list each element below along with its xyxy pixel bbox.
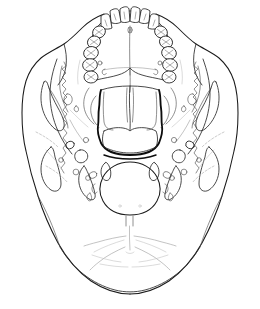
external-occipital-crest [126,216,133,226]
stylomastoid-foramen-right [197,158,202,163]
small-foramen-left-a [73,169,79,175]
foramen-lacerum-right [171,137,176,142]
small-foramen-right-a [181,169,187,175]
tooth-left-central-incisor [120,7,130,23]
inferior-nuchal-line-right [134,236,176,246]
styloid-process-right [165,166,181,200]
digastric-groove-right [192,166,214,183]
mandibular-fossa-right [196,81,219,131]
skull-figure: Human skull, inferior (basal) view [0,0,260,309]
foramen-magnum [100,162,160,226]
carotid-canal-right [184,140,195,150]
inferior-nuchal-line-left [84,236,126,246]
tooth-right-third-molar [162,71,176,83]
stylomastoid-foramen-left [59,158,64,163]
tooth-right-lateral-incisor [139,9,150,24]
hard-palate [96,26,164,92]
jugular-foramen-left [75,150,88,163]
median-palatine-suture [130,26,131,92]
foramen-lacerum-left [83,137,88,142]
tooth-left-third-molar [84,71,98,83]
lesser-palatine-foramen-left [98,61,102,65]
digastric-groove-left [46,166,68,183]
mandibular-fossa-left [41,81,64,131]
carotid-canal-left [64,140,75,150]
vomer [129,86,130,130]
foramen-spinosum-left [74,106,78,112]
skull-base-diagram: Human skull, inferior (basal) view [0,0,260,309]
tooth-right-central-incisor [130,7,140,23]
jugular-foramen-right [172,150,185,163]
tooth-left-second-molar [82,58,98,72]
styloid-process-left [79,166,95,200]
tooth-right-second-molar [162,58,178,72]
choanae-and-vomer [84,86,177,155]
sphenoid-body [103,128,158,153]
foramen-spinosum-right [182,106,186,112]
tooth-left-lateral-incisor [110,9,121,24]
occipital-squama [36,132,224,292]
lesser-palatine-foramen-right [158,61,162,65]
